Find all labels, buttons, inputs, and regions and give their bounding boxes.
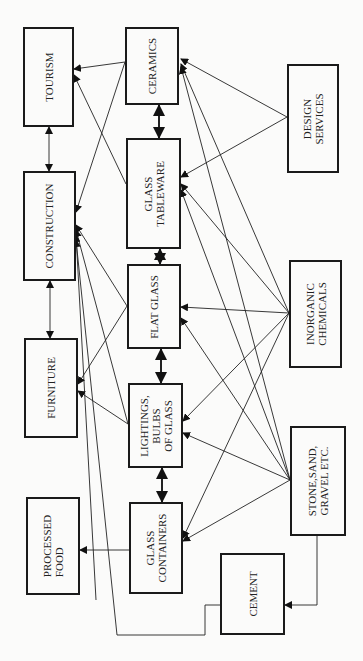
edge-inorganic-ceramics [181,64,289,313]
edge-inorganic-flatglass [181,307,289,313]
node-tourism: TOURISM [23,27,74,127]
node-label: CONSTRUCTION [44,184,56,269]
edge-flatglass-furniture [78,306,127,384]
node-label: GLASS TABLEWARE [142,161,166,227]
node-furniture: FURNITURE [24,338,78,438]
edge-stone-cement [285,536,317,605]
node-flat-glass: FLAT GLASS [127,264,181,349]
node-label: TOURISM [43,52,55,101]
node-label: PROCESSED FOOD [41,515,65,577]
edge-ceramics-construction [76,62,125,212]
node-label: STONE,SAND, GRAVEL ETC. [306,446,330,517]
edge-design-ceramics [181,59,287,117]
edge-stone-tableware [181,190,290,480]
node-glass-tableware: GLASS TABLEWARE [126,138,181,249]
node-stone-sand-gravel: STONE,SAND, GRAVEL ETC. [290,426,346,536]
node-label: LIGHTINGS, BULBS OF GLASS [138,395,174,456]
node-label: CERAMICS [146,38,158,94]
node-label: DESIGN SERVICES [301,93,325,144]
edge-inorganic-tableware [181,184,289,313]
edge-stone-containers [183,480,290,541]
node-processed-food: PROCESSED FOOD [26,497,80,595]
edge-stone-ceramics [181,67,290,480]
node-label: FLAT GLASS [148,275,160,339]
node-cement: CEMENT [220,553,285,635]
node-label: FURNITURE [45,357,57,419]
edge-inorganic-lightings [183,313,289,421]
node-glass-containers: GLASS CONTAINERS [129,502,183,594]
edge-inorganic-containers [183,313,289,538]
node-ceramics: CERAMICS [125,27,179,105]
node-design-services: DESIGN SERVICES [287,64,339,173]
node-inorganic-chemicals: INORGANIC CHEMICALS [289,260,342,368]
node-label: CEMENT [246,571,258,616]
node-label: INORGANIC CHEMICALS [304,282,328,346]
node-lightings: LIGHTINGS, BULBS OF GLASS [128,383,183,468]
node-construction: CONSTRUCTION [23,171,76,281]
edge-ceramics-tourism [74,62,125,69]
edge-tableware-tourism [74,75,126,184]
node-label: GLASS CONTAINERS [144,514,168,583]
edge-flatglass-construction [76,225,127,306]
